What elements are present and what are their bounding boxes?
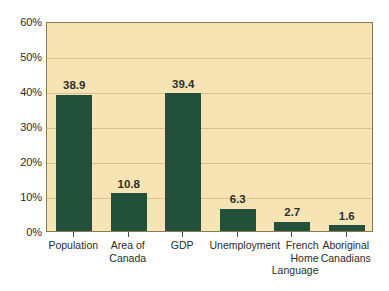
bar[interactable] bbox=[329, 225, 365, 231]
x-axis-tick bbox=[237, 232, 238, 237]
bar-value-label: 1.6 bbox=[339, 211, 355, 223]
x-axis-category-label: French Home Language bbox=[264, 239, 319, 277]
bar-value-label: 39.4 bbox=[172, 79, 194, 91]
bar-slot: 10.8 bbox=[102, 23, 157, 231]
bar[interactable] bbox=[274, 222, 310, 231]
bar[interactable] bbox=[111, 193, 147, 231]
bar[interactable] bbox=[165, 93, 201, 231]
x-axis-category-label: Aboriginal Canadians bbox=[319, 239, 374, 264]
x-axis-category-label: GDP bbox=[155, 239, 210, 252]
x-axis-tick bbox=[182, 232, 183, 237]
y-axis-tick-label: 20% bbox=[0, 157, 42, 168]
bar-value-label: 6.3 bbox=[230, 194, 246, 206]
bar-value-label: 10.8 bbox=[118, 179, 140, 191]
y-axis-tick-label: 0% bbox=[0, 227, 42, 238]
y-axis-tick-label: 60% bbox=[0, 17, 42, 28]
y-axis-tick-label: 30% bbox=[0, 122, 42, 133]
y-axis-tick-label: 50% bbox=[0, 52, 42, 63]
x-axis-category-label: Population bbox=[46, 239, 101, 252]
bar-slot: 2.7 bbox=[265, 23, 320, 231]
bar-slot: 39.4 bbox=[156, 23, 211, 231]
bar-value-label: 2.7 bbox=[284, 207, 300, 219]
bar[interactable] bbox=[56, 95, 92, 231]
y-axis: 0%10%20%30%40%50%60% bbox=[0, 22, 42, 232]
bar[interactable] bbox=[220, 209, 256, 231]
bar-value-label: 38.9 bbox=[63, 80, 85, 92]
x-axis-tick bbox=[128, 232, 129, 237]
bar-chart: 0%10%20%30%40%50%60% 38.910.839.46.32.71… bbox=[0, 0, 389, 291]
bar-slot: 1.6 bbox=[320, 23, 375, 231]
x-axis-tick bbox=[291, 232, 292, 237]
x-axis-tick bbox=[73, 232, 74, 237]
x-axis-category-label: Area of Canada bbox=[101, 239, 156, 264]
x-axis-tick bbox=[346, 232, 347, 237]
plot-area: 38.910.839.46.32.71.6 bbox=[46, 22, 373, 232]
bar-slot: 6.3 bbox=[211, 23, 266, 231]
y-axis-tick-label: 10% bbox=[0, 192, 42, 203]
y-axis-tick-label: 40% bbox=[0, 87, 42, 98]
bar-slot: 38.9 bbox=[47, 23, 102, 231]
x-axis-category-label: Unemployment bbox=[210, 239, 265, 252]
